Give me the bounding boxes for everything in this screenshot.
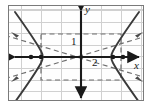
vertex-right-point bbox=[111, 55, 116, 60]
plot-area bbox=[8, 5, 144, 101]
tick-label-two: 2 bbox=[92, 57, 98, 68]
focus-left-point bbox=[29, 55, 34, 60]
hyperbola-figure: 1 2 x y bbox=[0, 0, 152, 112]
asymptote-arrow-upper-right bbox=[135, 32, 143, 38]
asymptote-arrow-upper-left bbox=[11, 32, 19, 38]
graph-artwork bbox=[9, 6, 144, 101]
asymptote-arrow-lower-left bbox=[11, 76, 19, 82]
focus-right-point bbox=[121, 55, 126, 60]
tick-label-one: 1 bbox=[71, 36, 77, 47]
y-axis-label: y bbox=[85, 4, 90, 15]
x-axis-label: x bbox=[134, 60, 139, 71]
vertex-left-point bbox=[39, 55, 44, 60]
asymptote-arrow-lower-right bbox=[135, 76, 143, 82]
